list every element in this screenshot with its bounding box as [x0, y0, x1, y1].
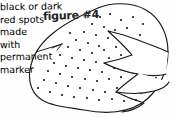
ink-spot: [49, 91, 51, 93]
ink-spot: [98, 99, 100, 101]
ink-spot: [37, 87, 39, 89]
ink-spot: [61, 94, 63, 96]
ink-spot: [108, 78, 110, 80]
ink-spot: [116, 87, 118, 89]
ink-spot: [111, 98, 113, 100]
ink-spot: [104, 91, 106, 93]
annotation-line-2: red spots: [0, 11, 176, 24]
ink-spot: [79, 87, 81, 89]
ink-spot: [123, 100, 125, 102]
annotation-line-4: with: [0, 36, 176, 49]
ink-spot: [73, 96, 75, 98]
annotation-line-6: marker: [0, 61, 176, 74]
ink-spot: [96, 80, 98, 82]
ink-spot: [92, 89, 94, 91]
ink-spot: [120, 76, 122, 78]
ink-spot: [67, 85, 69, 87]
ink-spot: [43, 79, 45, 81]
ink-spot: [86, 97, 88, 99]
figure-illustration-canvas: figure #4 black or dark red spots made w…: [0, 0, 176, 117]
ink-spot: [71, 76, 73, 78]
ink-spot: [84, 78, 86, 80]
ink-spot: [55, 82, 57, 84]
